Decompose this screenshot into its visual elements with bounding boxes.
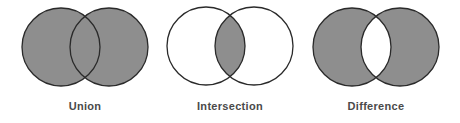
- difference-diagram: [313, 8, 439, 86]
- intersection-diagram: [167, 7, 293, 85]
- union-diagram: [22, 8, 148, 86]
- difference-label: Difference: [316, 100, 436, 112]
- intersection-label: Intersection: [170, 100, 290, 112]
- union-label: Union: [25, 100, 145, 112]
